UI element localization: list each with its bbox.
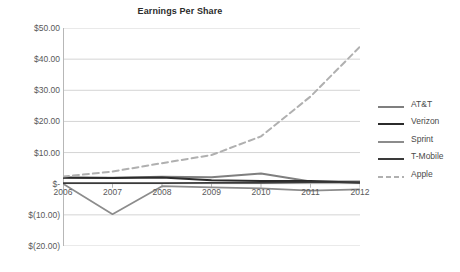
series-line-apple bbox=[63, 47, 360, 177]
chart-legend: AT&TVerizonSprintT-MobileApple bbox=[378, 95, 458, 183]
y-axis-label: $10.00 bbox=[34, 148, 60, 158]
y-axis-tick-labels: $(20.00)$(10.00)$-$10.00$20.00$30.00$40.… bbox=[0, 0, 60, 272]
chart-container: Earnings Per Share $(20.00)$(10.00)$-$10… bbox=[0, 0, 460, 272]
x-axis-label-2012: 2012 bbox=[351, 187, 370, 197]
legend-label: Apple bbox=[411, 169, 433, 179]
y-axis-label: $20.00 bbox=[34, 116, 60, 126]
x-axis-label-2007: 2007 bbox=[103, 187, 122, 197]
y-axis-label: $40.00 bbox=[34, 54, 60, 64]
y-axis-label: $50.00 bbox=[34, 23, 60, 33]
legend-item-verizon[interactable]: Verizon bbox=[378, 113, 458, 131]
y-axis-label: $30.00 bbox=[34, 85, 60, 95]
legend-label: T-Mobile bbox=[411, 151, 444, 161]
legend-item-apple[interactable]: Apple bbox=[378, 165, 458, 183]
plot-svg bbox=[63, 28, 360, 246]
legend-item-sprint[interactable]: Sprint bbox=[378, 130, 458, 148]
x-axis-label-2010: 2010 bbox=[252, 187, 271, 197]
legend-label: Sprint bbox=[411, 134, 433, 144]
x-axis-label-2006: 2006 bbox=[54, 187, 73, 197]
plot-area bbox=[63, 28, 360, 246]
x-axis-label-2011: 2011 bbox=[301, 187, 319, 197]
legend-item-t-mobile[interactable]: T-Mobile bbox=[378, 148, 458, 166]
legend-label: Verizon bbox=[411, 116, 439, 126]
y-axis-label: $(20.00) bbox=[28, 241, 60, 251]
legend-label: AT&T bbox=[411, 99, 432, 109]
x-axis-label-2008: 2008 bbox=[153, 187, 172, 197]
series-line-t-mobile bbox=[63, 182, 360, 183]
legend-item-at-t[interactable]: AT&T bbox=[378, 95, 458, 113]
y-axis-label: $(10.00) bbox=[28, 210, 60, 220]
x-axis-label-2009: 2009 bbox=[202, 187, 221, 197]
